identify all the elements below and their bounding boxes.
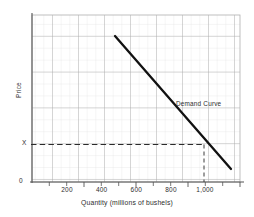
- x-tick-label-1000: 1,000: [196, 186, 213, 193]
- x-tick-label-600: 600: [131, 186, 142, 193]
- y-axis-origin-label: 0: [19, 177, 23, 184]
- demand-curve-annotation: Demand Curve: [176, 100, 221, 107]
- x-tick-label-200: 200: [61, 186, 72, 193]
- x-tick-label-800: 800: [165, 186, 176, 193]
- x-axis-title: Quantity (millions of bushels): [0, 199, 254, 206]
- demand-curve-chart: 200 400 600 800 1,000 0 X Price Quantity…: [0, 0, 254, 217]
- y-axis-price-marker-label: X: [22, 139, 26, 146]
- chart-plot-area: [0, 0, 254, 217]
- y-axis-title: Price: [15, 70, 22, 110]
- x-tick-label-400: 400: [96, 186, 107, 193]
- grid-major: [32, 15, 240, 182]
